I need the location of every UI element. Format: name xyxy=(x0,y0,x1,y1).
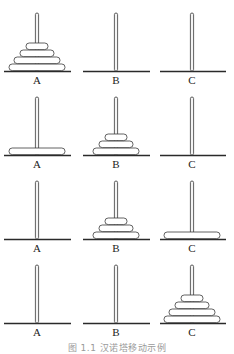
peg-label-c: C xyxy=(188,158,195,170)
disc-size-4 xyxy=(9,148,65,155)
peg-c-group: C xyxy=(160,181,226,254)
peg-label-a: A xyxy=(33,74,41,86)
peg-rod xyxy=(190,97,193,155)
peg-label-b: B xyxy=(112,158,119,170)
peg-rod xyxy=(114,265,117,323)
disc-size-4 xyxy=(164,316,220,323)
peg-rod xyxy=(114,13,117,71)
peg-rod xyxy=(35,97,38,155)
peg-c-group: C xyxy=(160,13,226,86)
step-panel-2: ABC xyxy=(4,97,226,170)
step-panel-1: ABC xyxy=(4,13,226,86)
peg-a-group: A xyxy=(4,265,71,338)
peg-label-b: B xyxy=(112,242,119,254)
disc-size-3 xyxy=(93,148,139,155)
tower-of-hanoi-diagram: ABCABCABCABC xyxy=(0,0,234,354)
peg-rod xyxy=(35,265,38,323)
peg-a-group: A xyxy=(4,13,71,86)
peg-b-group: B xyxy=(83,181,150,254)
disc-size-2 xyxy=(20,50,54,57)
peg-label-c: C xyxy=(188,74,195,86)
peg-rod xyxy=(190,181,193,239)
peg-label-a: A xyxy=(33,242,41,254)
disc-size-3 xyxy=(93,232,139,239)
step-panel-3: ABC xyxy=(4,181,226,254)
peg-label-b: B xyxy=(112,326,119,338)
peg-rod xyxy=(35,181,38,239)
peg-b-group: B xyxy=(83,265,150,338)
disc-size-3 xyxy=(169,309,215,316)
disc-size-2 xyxy=(99,141,133,148)
disc-size-4 xyxy=(164,232,220,239)
peg-a-group: A xyxy=(4,97,71,170)
peg-b-group: B xyxy=(83,13,150,86)
peg-a-group: A xyxy=(4,181,71,254)
disc-size-1 xyxy=(105,218,127,225)
disc-size-1 xyxy=(26,43,48,50)
figure-caption: 图 1.1 汉诺塔移动示例 xyxy=(0,341,234,354)
disc-size-4 xyxy=(9,64,65,71)
peg-label-c: C xyxy=(188,326,195,338)
peg-c-group: C xyxy=(160,97,226,170)
peg-b-group: B xyxy=(83,97,150,170)
disc-size-2 xyxy=(175,302,209,309)
peg-label-a: A xyxy=(33,158,41,170)
peg-label-a: A xyxy=(33,326,41,338)
disc-size-3 xyxy=(14,57,60,64)
disc-size-1 xyxy=(181,295,203,302)
peg-label-c: C xyxy=(188,242,195,254)
step-panel-4: ABC xyxy=(4,265,226,338)
peg-c-group: C xyxy=(160,265,226,338)
peg-rod xyxy=(190,13,193,71)
peg-label-b: B xyxy=(112,74,119,86)
disc-size-2 xyxy=(99,225,133,232)
disc-size-1 xyxy=(105,134,127,141)
